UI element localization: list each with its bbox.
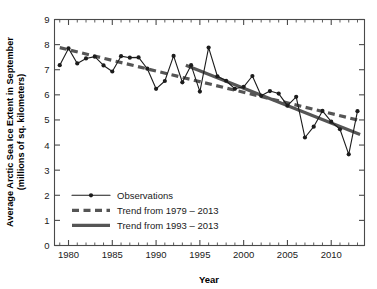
x-tick-label: 2010 <box>321 249 342 260</box>
observation-point <box>303 135 307 139</box>
observation-point <box>224 79 228 83</box>
x-axis-title: Year <box>199 274 219 285</box>
observation-point <box>145 67 149 71</box>
observation-point <box>163 79 167 83</box>
legend-label: Trend from 1979 – 2013 <box>117 205 219 216</box>
y-tick-label: 1 <box>44 215 49 226</box>
x-tick-label: 1985 <box>102 249 123 260</box>
y-tick-label: 4 <box>44 140 49 151</box>
observation-point <box>84 56 88 60</box>
observation-point <box>189 63 193 67</box>
y-tick-label: 3 <box>44 165 49 176</box>
observation-point <box>355 109 359 113</box>
observation-point <box>119 54 123 58</box>
observation-point <box>198 89 202 93</box>
observation-point <box>347 152 351 156</box>
observation-point <box>180 80 184 84</box>
y-tick-label: 9 <box>44 14 49 25</box>
observation-point <box>338 127 342 131</box>
observation-point <box>66 46 70 50</box>
observation-point <box>215 74 219 78</box>
y-tick-label: 7 <box>44 64 49 75</box>
x-tick-label: 1995 <box>189 249 210 260</box>
observation-point <box>250 74 254 78</box>
y-tick-label: 6 <box>44 89 49 100</box>
arctic-sea-ice-chart: 1980198519901995200020052010 0123456789 … <box>0 0 377 289</box>
observation-point <box>277 91 281 95</box>
observation-point <box>268 89 272 93</box>
y-axis-title-line1: Average Arctic Sea Ice Extent in Septemb… <box>5 37 15 227</box>
observation-point <box>101 63 105 67</box>
legend-swatch-observations-marker <box>89 193 93 197</box>
observation-point <box>172 54 176 58</box>
observation-point <box>320 109 324 113</box>
observation-point <box>207 46 211 50</box>
y-tick-label: 8 <box>44 39 49 50</box>
observation-point <box>294 95 298 99</box>
observation-point <box>233 87 237 91</box>
x-tick-label: 1990 <box>146 249 167 260</box>
observation-point <box>259 94 263 98</box>
legend-label: Trend from 1993 – 2013 <box>117 220 219 231</box>
observation-point <box>75 61 79 65</box>
y-tick-label: 5 <box>44 114 49 125</box>
y-axis-title-line2: (millions of sq. kilometers) <box>16 74 26 190</box>
observation-point <box>58 63 62 67</box>
x-tick-label: 1980 <box>58 249 79 260</box>
observation-point <box>329 120 333 124</box>
y-tick-label: 0 <box>44 240 49 251</box>
y-tick-label: 2 <box>44 190 49 201</box>
figure-container: 1980198519901995200020052010 0123456789 … <box>0 0 377 289</box>
observation-point <box>312 125 316 129</box>
observation-point <box>93 55 97 59</box>
observation-point <box>242 85 246 89</box>
x-tick-label: 2005 <box>277 249 298 260</box>
observation-point <box>110 69 114 73</box>
observation-point <box>285 104 289 108</box>
observation-point <box>136 55 140 59</box>
legend-label: Observations <box>117 190 173 201</box>
observation-point <box>128 56 132 60</box>
observation-point <box>154 87 158 91</box>
x-tick-label: 2000 <box>233 249 254 260</box>
